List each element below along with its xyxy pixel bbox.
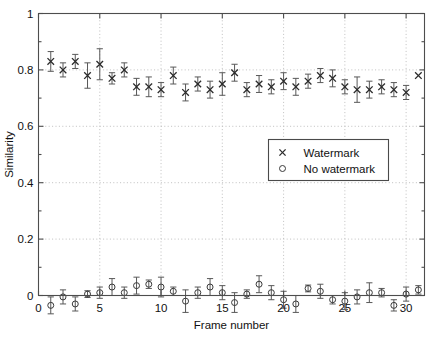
x-tick-label-5: 25 (338, 302, 351, 314)
y-tick-label-1: 0.2 (18, 233, 34, 245)
y-tick-label-5: 1 (27, 8, 33, 20)
error-bar (109, 279, 115, 296)
x-tick-label-0: 0 (35, 302, 41, 314)
legend-label-1: No watermark (304, 163, 376, 175)
error-bar (293, 296, 299, 313)
y-tick-label-4: 0.8 (18, 64, 34, 76)
y-tick-label-3: 0.6 (18, 120, 34, 132)
error-bar (391, 300, 397, 311)
error-bar (317, 284, 323, 298)
x-tick-label-4: 20 (277, 302, 290, 314)
error-bar (268, 286, 274, 300)
series-watermark (47, 49, 421, 103)
error-bar (354, 290, 360, 304)
error-bar (48, 297, 54, 314)
error-bar (182, 290, 188, 313)
x-tick-label-1: 5 (97, 302, 103, 314)
error-bar (256, 276, 262, 293)
x-tick-label-3: 15 (216, 302, 229, 314)
legend-label-0: Watermark (304, 147, 360, 159)
error-bar (366, 283, 372, 303)
error-bar (72, 297, 78, 311)
y-tick-label-2: 0.4 (18, 177, 35, 189)
series-no-watermark (48, 276, 422, 314)
x-axis-title: Frame number (194, 319, 270, 331)
chart-canvas: 00.20.40.60.81051015202530Frame numberSi… (0, 0, 442, 343)
error-bar (195, 287, 201, 298)
error-bar (121, 287, 127, 298)
error-bar (60, 290, 66, 304)
y-axis-title: Similarity (3, 131, 15, 178)
x-tick-label-6: 30 (400, 302, 413, 314)
legend: WatermarkNo watermark (269, 140, 389, 181)
error-bar (207, 279, 213, 296)
similarity-scatter-figure: 00.20.40.60.81051015202530Frame numberSi… (0, 0, 442, 343)
x-tick-label-2: 10 (155, 302, 168, 314)
y-tick-label-0: 0 (27, 290, 33, 302)
data-point-x (415, 72, 422, 79)
error-bar (133, 277, 139, 294)
